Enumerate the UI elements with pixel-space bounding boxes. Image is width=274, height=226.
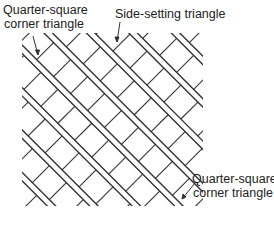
strip [55, 0, 274, 177]
arrowhead-icon [36, 50, 40, 55]
arrowhead-icon [115, 37, 119, 42]
strip [0, 19, 213, 226]
quilt-strips [0, 0, 274, 226]
strip [76, 0, 274, 156]
strip [0, 82, 150, 226]
leader-lines [33, 22, 195, 199]
strip [34, 0, 274, 198]
quilt-diagram [0, 0, 274, 226]
strip [0, 61, 171, 226]
